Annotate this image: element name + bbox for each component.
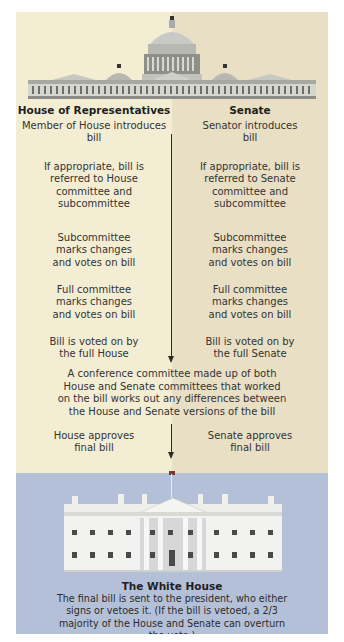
house-approves-step: House approves final bill [16, 430, 172, 455]
white-house-title: The White House [16, 580, 328, 592]
senate-step-1: Senator introduces bill [172, 120, 328, 145]
white-house-icon [62, 494, 284, 574]
senate-step-4: Full committee marks changes and votes o… [172, 284, 328, 321]
senate-column-title: Senate [172, 104, 328, 116]
legislative-process-diagram: House of Representatives Senate Member o… [16, 12, 328, 634]
house-step-2: If appropriate, bill is referred to Hous… [16, 161, 172, 211]
house-column-title: House of Representatives [16, 104, 172, 116]
white-house-description-text: The final bill is sent to the president,… [54, 593, 290, 634]
capitol-building-icon [24, 14, 320, 102]
conference-committee-text: A conference committee made up of both H… [57, 368, 287, 418]
house-step-1: Member of House introduces bill [16, 120, 172, 145]
house-step-5: Bill is voted on by the full House [16, 336, 172, 361]
us-flag-icon [169, 471, 175, 475]
conference-committee-step: A conference committee made up of both H… [16, 368, 328, 418]
house-step-3: Subcommittee marks changes and votes on … [16, 232, 172, 269]
down-arrow-icon [168, 356, 174, 363]
senate-step-3: Subcommittee marks changes and votes on … [172, 232, 328, 269]
senate-approves-step: Senate approves final bill [172, 430, 328, 455]
senate-step-2: If appropriate, bill is referred to Sena… [172, 161, 328, 211]
process-arrow-line [171, 134, 172, 358]
house-step-4: Full committee marks changes and votes o… [16, 284, 172, 321]
white-house-description: The final bill is sent to the president,… [16, 593, 328, 634]
senate-step-5: Bill is voted on by the full Senate [172, 336, 328, 361]
